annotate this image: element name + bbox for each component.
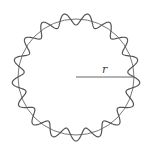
standing-wave — [12, 14, 139, 141]
radius-label: r — [102, 63, 108, 76]
standing-wave-diagram: r — [0, 0, 151, 147]
